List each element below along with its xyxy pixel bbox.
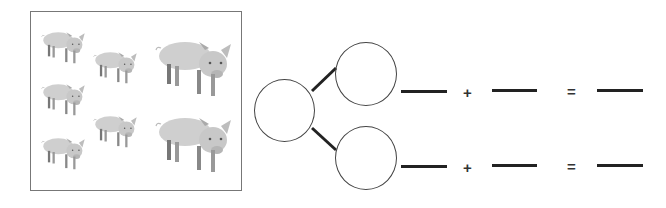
- equals-sign: =: [567, 159, 576, 174]
- pig-icon: [41, 76, 87, 120]
- plus-sign: +: [463, 85, 472, 100]
- part-bottom-circle[interactable]: [335, 126, 397, 190]
- pig-icon: [155, 108, 235, 176]
- pig-icon: [41, 24, 87, 68]
- equation-1-sum-blank[interactable]: [597, 89, 643, 92]
- pig-icon: [155, 32, 235, 100]
- whole-circle[interactable]: [254, 79, 315, 142]
- pig-icon: [41, 130, 87, 174]
- part-top-circle[interactable]: [335, 42, 397, 106]
- pig-picture-box: [30, 11, 242, 191]
- equals-sign: =: [567, 84, 576, 99]
- equation-1-addend2-blank[interactable]: [492, 89, 537, 92]
- equation-1-addend1-blank[interactable]: [401, 90, 447, 93]
- pig-icon: [93, 44, 139, 88]
- equation-2-addend2-blank[interactable]: [492, 164, 537, 167]
- plus-sign: +: [463, 160, 472, 175]
- pig-icon: [93, 108, 139, 152]
- equation-2-sum-blank[interactable]: [597, 164, 643, 167]
- equation-2-addend1-blank[interactable]: [401, 165, 447, 168]
